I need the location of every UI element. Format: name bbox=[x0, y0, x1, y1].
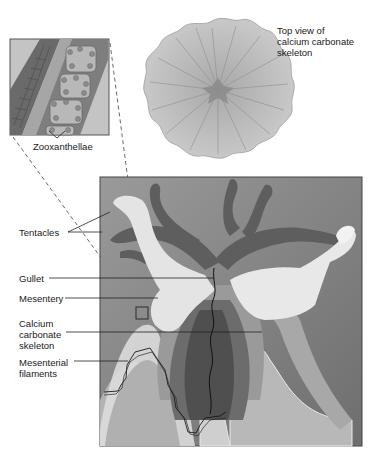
label-mesentery: Mesentery bbox=[19, 293, 63, 304]
label-zooxanthellae: Zooxanthellae bbox=[33, 141, 93, 152]
label-tentacles: Tentacles bbox=[19, 227, 59, 238]
polyp-cross-section bbox=[100, 177, 362, 446]
label-top-view: Top view of calcium carbonate skeleton bbox=[277, 25, 354, 58]
label-calcium-carbonate-skeleton: Calcium carbonate skeleton bbox=[19, 318, 61, 351]
zooxanthellae-inset bbox=[10, 39, 109, 138]
label-gullet: Gullet bbox=[19, 273, 44, 284]
skeleton-top-view bbox=[144, 18, 295, 158]
label-mesenterial-filaments: Mesenterial filaments bbox=[19, 357, 68, 379]
